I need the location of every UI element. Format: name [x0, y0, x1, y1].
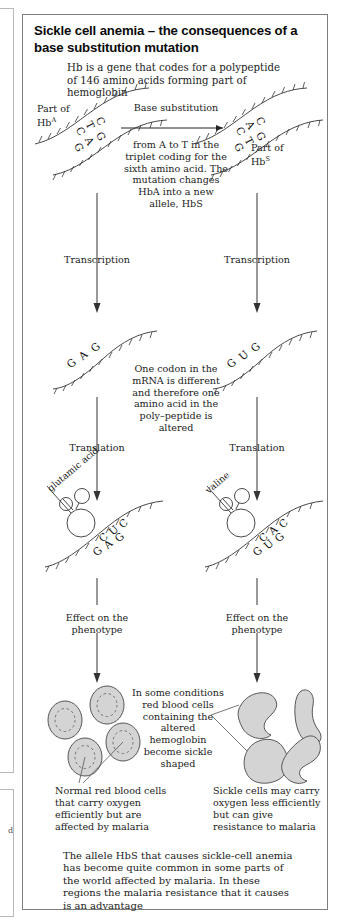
- leader-lines-normal-cells: [79, 742, 123, 783]
- base-mrna-left-2: A: [76, 348, 90, 362]
- base-trna-left-codon-1: G: [90, 544, 104, 558]
- base-mrna-right-2: U: [236, 348, 251, 363]
- center-base-substitution-body: from A to T in the triplet coding for th…: [123, 139, 229, 210]
- base-trna-right-codon-3: G: [272, 530, 286, 544]
- figure-title: Sickle cell anemia – the consequences of…: [34, 22, 320, 56]
- base-hbs-top-3: C: [254, 115, 268, 128]
- label-transcription-left: Transcription: [51, 254, 143, 266]
- trna-complex-right: [205, 486, 323, 572]
- trna-complex-left: [45, 486, 163, 572]
- diagram-frame: Sickle cell anemia – the consequences of…: [22, 14, 328, 910]
- center-base-substitution-heading: Base substitution: [127, 102, 225, 114]
- arrow-transcription-left: [94, 193, 101, 313]
- arrow-base-substitution: [121, 125, 223, 131]
- label-valine: valine: [203, 469, 231, 495]
- caption-sickle-cells: Sickle cells may carry oxygen less effic…: [213, 785, 325, 833]
- base-trna-left-codon-2: A: [101, 537, 115, 551]
- base-mrna-right-1: G: [224, 356, 238, 370]
- normal-red-blood-cells: [48, 686, 140, 776]
- label-effect-phenotype-left: Effect on the phenotype: [53, 612, 141, 635]
- label-translation-right: Translation: [211, 442, 303, 454]
- normal-red-blood-cells-pallor: [55, 694, 133, 769]
- label-transcription-right: Transcription: [211, 254, 303, 266]
- figure-page: d Sickle cell anemia – the consequences …: [0, 0, 340, 922]
- center-sickle-note: In some conditions red blood cells conta…: [131, 687, 225, 770]
- base-trna-right-anticodon-3: C: [276, 516, 290, 530]
- page-margin-artifact-bottom: [0, 789, 14, 917]
- center-codon-note: One codon in the mRNA is different and t…: [127, 363, 225, 434]
- page-margin-artifact-top: [0, 8, 14, 773]
- base-mrna-left-3: G: [88, 340, 102, 354]
- figure-intro-text: Hb is a gene that codes for a polypeptid…: [67, 62, 291, 100]
- margin-tick-mark: d: [8, 826, 13, 835]
- base-trna-right-codon-2: U: [261, 537, 276, 552]
- arrow-transcription-right: [254, 193, 261, 313]
- base-mrna-right-3: G: [248, 340, 262, 354]
- label-effect-phenotype-right: Effect on the phenotype: [213, 612, 301, 635]
- figure-footnote: The allele HbS that causes sickle-cell a…: [63, 850, 295, 912]
- base-hbs-bottom-3: G: [254, 130, 268, 143]
- base-hba-bottom-3: G: [94, 130, 108, 143]
- sickle-cells: [238, 690, 321, 783]
- caption-normal-red-blood-cells: Normal red blood cells that carry oxygen…: [55, 785, 175, 833]
- base-mrna-left-1: G: [64, 356, 78, 370]
- base-trna-right-codon-1: G: [250, 544, 264, 558]
- label-part-of-hbs: Part of HbS: [251, 142, 313, 167]
- base-trna-left-codon-3: G: [112, 530, 126, 544]
